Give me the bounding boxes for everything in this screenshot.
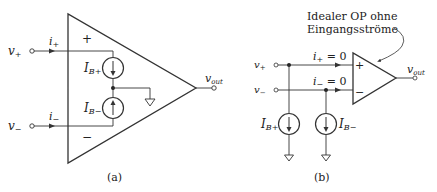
label-i-plus-b: i+ = 0 [313,50,346,64]
label-v-out-a: vout [205,72,223,86]
terminal-v-minus-a [30,124,34,128]
terminal-v-minus-b [274,88,278,92]
ground-symbol-minus-b [322,155,331,161]
label-i-plus-a: i+ [49,35,59,49]
label-v-plus-b: v+ [254,59,266,72]
terminal-v-out-a [212,86,216,90]
terminal-v-plus-b [274,63,278,67]
panel-a: v+ i+ v− i− + − IB+ IB− [8,14,223,184]
minus-sign-b: − [355,86,364,99]
label-i-minus-b: i− = 0 [313,75,346,89]
label-ib-plus-b: IB+ [260,117,278,132]
annotation-line1: Idealer OP ohne [307,10,397,23]
panel-b: Idealer OP ohne Eingangsströme + − v+ i+… [254,10,425,184]
label-ib-minus-a: IB− [83,101,101,116]
minus-sign-a: − [82,130,92,144]
label-ib-minus-b: IB− [338,117,356,132]
label-ib-plus-a: IB+ [83,61,101,76]
current-source-ib-minus-b [316,114,337,135]
current-arrow-i-plus-a [49,49,55,54]
label-v-minus-b: v− [254,84,266,97]
annotation-line2: Eingangsströme [307,23,398,36]
label-i-minus-a: i− [49,110,59,124]
opamp-bias-current-diagram: v+ i+ v− i− + − IB+ IB− [0,0,437,192]
label-v-out-b: vout [407,63,425,77]
current-source-ib-minus-a [103,98,124,119]
plus-sign-b: + [355,59,364,72]
current-source-ib-plus-b [279,114,300,135]
caption-a: (a) [107,171,122,184]
label-v-minus-a: v− [8,119,21,134]
current-source-ib-plus-a [103,58,124,79]
label-v-plus-a: v+ [8,44,21,59]
ground-symbol-a [145,99,155,106]
terminal-v-plus-a [30,49,34,53]
caption-b: (b) [314,171,330,184]
current-arrow-i-minus-a [49,124,55,129]
plus-sign-a: + [82,32,92,46]
ground-symbol-plus-b [285,155,294,161]
